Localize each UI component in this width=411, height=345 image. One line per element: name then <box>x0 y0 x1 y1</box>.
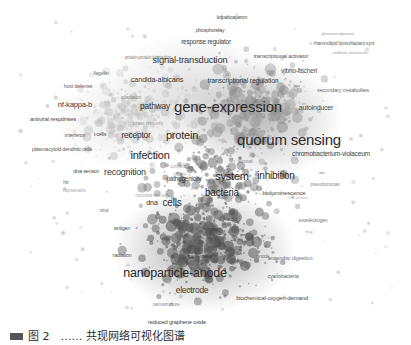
term-node[interactable] <box>123 125 126 128</box>
term-node[interactable] <box>202 153 209 160</box>
term-node[interactable] <box>239 218 241 220</box>
term-node[interactable] <box>166 114 168 116</box>
term-node[interactable] <box>250 117 252 119</box>
term-node[interactable] <box>199 110 201 112</box>
term-node[interactable] <box>363 229 367 233</box>
term-node[interactable] <box>218 218 222 222</box>
term-node[interactable] <box>284 103 286 105</box>
term-node[interactable] <box>247 63 249 65</box>
term-node[interactable] <box>235 230 237 232</box>
term-node[interactable] <box>184 90 186 92</box>
term-node[interactable] <box>162 133 166 137</box>
term-node[interactable] <box>230 128 232 130</box>
term-node[interactable] <box>271 73 273 75</box>
term-node[interactable] <box>261 102 263 104</box>
term-node[interactable] <box>198 142 200 144</box>
term-node[interactable] <box>247 90 253 96</box>
term-node[interactable] <box>166 80 168 82</box>
term-node[interactable] <box>120 172 122 174</box>
term-node[interactable] <box>203 234 205 236</box>
term-node[interactable] <box>209 271 211 273</box>
term-node[interactable] <box>157 102 159 104</box>
term-node[interactable] <box>224 252 226 254</box>
term-node[interactable] <box>231 100 233 102</box>
term-node[interactable] <box>220 243 222 245</box>
term-node[interactable] <box>233 223 236 226</box>
term-node[interactable] <box>224 181 226 183</box>
term-node[interactable] <box>277 143 279 145</box>
term-node[interactable] <box>145 102 147 104</box>
term-node[interactable] <box>116 139 118 141</box>
term-node[interactable] <box>187 233 189 235</box>
term-node[interactable] <box>19 73 23 77</box>
term-node[interactable] <box>259 113 261 115</box>
term-node[interactable] <box>232 83 234 85</box>
term-node[interactable] <box>250 259 252 261</box>
term-node[interactable] <box>205 264 207 266</box>
term-node[interactable] <box>191 181 200 190</box>
term-node[interactable] <box>176 246 178 248</box>
term-node[interactable] <box>248 201 250 203</box>
term-node[interactable] <box>236 102 238 104</box>
term-node[interactable] <box>198 261 200 263</box>
term-node[interactable] <box>169 213 172 216</box>
term-node[interactable] <box>171 120 177 126</box>
term-node[interactable] <box>176 241 181 246</box>
term-node[interactable] <box>107 118 109 120</box>
term-node[interactable] <box>249 231 251 233</box>
term-node[interactable] <box>164 171 166 173</box>
term-node[interactable] <box>189 250 191 252</box>
term-node[interactable] <box>166 260 168 262</box>
term-node[interactable] <box>110 124 114 128</box>
term-node[interactable] <box>184 180 191 187</box>
term-node[interactable] <box>54 20 58 24</box>
term-node[interactable] <box>202 279 204 281</box>
term-node[interactable] <box>230 186 232 188</box>
term-node[interactable] <box>271 247 273 249</box>
term-node[interactable] <box>305 91 307 93</box>
term-node[interactable] <box>62 116 66 120</box>
term-node[interactable] <box>187 118 189 120</box>
term-node[interactable] <box>183 240 185 242</box>
term-node[interactable] <box>81 247 85 251</box>
term-node[interactable] <box>206 154 208 156</box>
term-node[interactable] <box>226 241 228 243</box>
term-node[interactable] <box>154 190 161 197</box>
term-node[interactable] <box>128 114 130 116</box>
term-node[interactable] <box>217 237 220 240</box>
term-node[interactable] <box>244 119 246 121</box>
term-node[interactable] <box>113 129 116 132</box>
term-node[interactable] <box>213 220 216 223</box>
term-node[interactable] <box>223 245 225 247</box>
term-node[interactable] <box>213 156 216 159</box>
term-node[interactable] <box>157 248 164 255</box>
term-node[interactable] <box>131 35 134 38</box>
term-node[interactable] <box>124 162 126 164</box>
term-node[interactable] <box>226 100 228 102</box>
term-node[interactable] <box>264 241 271 248</box>
term-node[interactable] <box>106 109 108 111</box>
term-node[interactable] <box>386 231 390 235</box>
term-node[interactable] <box>258 95 262 99</box>
term-node[interactable] <box>266 135 272 141</box>
term-node[interactable] <box>177 183 179 185</box>
term-node[interactable] <box>165 245 168 248</box>
term-node[interactable] <box>108 89 110 91</box>
term-node[interactable] <box>206 211 208 213</box>
term-node[interactable] <box>211 204 214 207</box>
term-node[interactable] <box>214 100 216 102</box>
term-node[interactable] <box>149 168 155 174</box>
term-node[interactable] <box>111 117 113 119</box>
term-node[interactable] <box>184 252 186 254</box>
term-node[interactable] <box>218 52 221 55</box>
term-node[interactable] <box>367 221 370 224</box>
term-node[interactable] <box>246 219 254 227</box>
term-node[interactable] <box>202 212 205 215</box>
term-node[interactable] <box>227 111 229 113</box>
term-node[interactable] <box>234 60 238 64</box>
term-node[interactable] <box>156 211 159 214</box>
term-node[interactable] <box>125 305 129 309</box>
term-node[interactable] <box>176 138 178 140</box>
term-node[interactable] <box>148 121 150 123</box>
term-node[interactable] <box>283 73 285 75</box>
